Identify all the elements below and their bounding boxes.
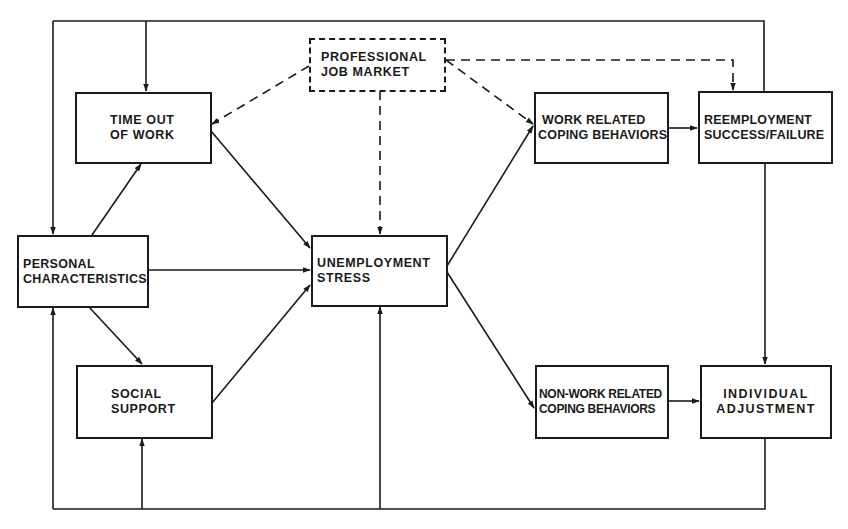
edge-time-out-to-stress <box>211 131 310 248</box>
node-label-line: STRESS <box>317 271 371 286</box>
node-label-line: NON-WORK RELATED <box>539 387 662 402</box>
node-personal-characteristics: PERSONAL CHARACTERISTICS <box>17 235 149 308</box>
feedback-bottom-frame <box>53 438 765 509</box>
node-label-line: SUPPORT <box>111 402 176 417</box>
node-label-line: WORK RELATED <box>538 113 646 128</box>
node-label-line: OF WORK <box>110 128 175 143</box>
dashed-edge-market-to-time-out <box>212 66 309 124</box>
node-label-line: COPING BEHAVIORS <box>538 128 667 143</box>
edge-social-support-to-stress <box>212 285 310 403</box>
node-label-line: COPING BEHAVIORS <box>539 402 655 417</box>
node-social-support: SOCIAL SUPPORT <box>76 365 213 439</box>
node-label-line: TIME OUT <box>110 113 175 128</box>
node-label-line: REEMPLOYMENT <box>704 113 812 128</box>
node-time-out-of-work: TIME OUT OF WORK <box>75 92 212 164</box>
edge-personal-to-time-out <box>92 164 141 235</box>
node-label-line: PERSONAL <box>23 257 95 272</box>
dashed-edge-market-to-work-coping <box>446 60 533 124</box>
node-label-line: ADJUSTMENT <box>716 402 815 417</box>
node-individual-adjustment: INDIVIDUAL ADJUSTMENT <box>700 365 832 439</box>
node-label-line: SUCCESS/FAILURE <box>704 128 824 143</box>
edge-stress-to-work-coping <box>447 126 533 266</box>
edge-personal-to-social-support <box>89 307 142 364</box>
node-unemployment-stress: UNEMPLOYMENT STRESS <box>311 235 448 307</box>
node-work-related-coping: WORK RELATED COPING BEHAVIORS <box>534 92 669 164</box>
edge-stress-to-nonwork-coping <box>447 272 534 408</box>
node-label-line: PROFESSIONAL <box>321 50 427 65</box>
node-label-line: CHARACTERISTICS <box>23 272 147 287</box>
node-nonwork-related-coping: NON-WORK RELATED COPING BEHAVIORS <box>535 365 669 439</box>
node-label-line: SOCIAL <box>111 387 162 402</box>
node-professional-job-market: PROFESSIONAL JOB MARKET <box>309 38 446 92</box>
node-label-line: INDIVIDUAL <box>723 387 809 402</box>
node-reemployment-success-failure: REEMPLOYMENT SUCCESS/FAILURE <box>698 91 833 164</box>
node-label-line: UNEMPLOYMENT <box>317 256 430 271</box>
diagram-canvas: PROFESSIONAL JOB MARKET TIME OUT OF WORK… <box>0 0 848 529</box>
node-label-line: JOB MARKET <box>321 65 410 80</box>
dashed-edge-market-to-reemployment <box>446 60 733 90</box>
